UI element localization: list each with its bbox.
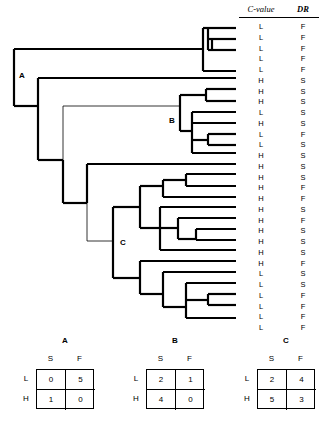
- cvalue-state: H: [240, 87, 282, 98]
- dr-state: F: [288, 65, 318, 76]
- state-row: LF: [236, 130, 325, 141]
- table-cell: 0: [37, 370, 66, 390]
- cvalue-state: L: [240, 44, 282, 55]
- table-cell: 1: [37, 390, 66, 410]
- dr-state: F: [288, 130, 318, 141]
- dr-state: F: [288, 22, 318, 33]
- clade-label-b: B: [168, 116, 176, 126]
- tree-diagram: [0, 0, 245, 330]
- cvalue-state: L: [240, 291, 282, 302]
- column-header: F: [286, 354, 315, 363]
- dr-state: F: [288, 259, 318, 270]
- dr-state: F: [288, 216, 318, 227]
- state-row-list: LFLFLFLFLFHSHSHSLSHSLFLSHSHSHSHFHFHSHFHS…: [236, 22, 325, 334]
- table-cell: 5: [66, 370, 95, 390]
- cvalue-state: L: [240, 269, 282, 280]
- dr-state: S: [288, 97, 318, 108]
- cvalue-state: H: [240, 259, 282, 270]
- table-cell: 1: [176, 370, 205, 390]
- column-header: S: [257, 354, 286, 363]
- state-row: HS: [236, 237, 325, 248]
- dr-state: S: [288, 248, 318, 259]
- table-cell: 4: [147, 390, 176, 410]
- dr-state: F: [288, 323, 318, 334]
- state-row: LF: [236, 22, 325, 33]
- state-row: LF: [236, 44, 325, 55]
- state-row: LF: [236, 323, 325, 334]
- state-row: LS: [236, 140, 325, 151]
- dr-state: S: [288, 119, 318, 130]
- clade-label-a: A: [18, 71, 26, 81]
- cvalue-state: L: [240, 33, 282, 44]
- cvalue-state: L: [240, 323, 282, 334]
- table-column-headers: SF: [257, 354, 315, 366]
- table-grid: 2140: [146, 369, 204, 409]
- state-row: LF: [236, 33, 325, 44]
- state-row: LS: [236, 280, 325, 291]
- column-header: S: [146, 354, 175, 363]
- cvalue-state: L: [240, 108, 282, 119]
- clade-label-c: C: [119, 238, 127, 248]
- state-row: LF: [236, 65, 325, 76]
- row-header: H: [130, 394, 142, 403]
- dr-state: S: [288, 226, 318, 237]
- table-grid: 2453: [257, 369, 315, 409]
- dr-state: S: [288, 173, 318, 184]
- cvalue-state: H: [240, 151, 282, 162]
- cvalue-state: H: [240, 237, 282, 248]
- dr-state: S: [288, 108, 318, 119]
- column-header: F: [175, 354, 204, 363]
- dr-state: S: [288, 269, 318, 280]
- dr-state: F: [288, 33, 318, 44]
- state-row: HS: [236, 119, 325, 130]
- state-row: LS: [236, 269, 325, 280]
- dr-state: F: [288, 54, 318, 65]
- dr-state: F: [288, 44, 318, 55]
- cvalue-state: L: [240, 22, 282, 33]
- contingency-tables: ASFLH0510BSFLH2140CSFLH2453: [0, 336, 325, 429]
- table-cell: 4: [287, 370, 316, 390]
- dr-state: S: [288, 140, 318, 151]
- cvalue-state: H: [240, 97, 282, 108]
- dr-state: F: [288, 291, 318, 302]
- cvalue-state: L: [240, 312, 282, 323]
- cvalue-state: H: [240, 183, 282, 194]
- cvalue-state: H: [240, 226, 282, 237]
- table-column-headers: SF: [36, 354, 94, 366]
- dr-state: F: [288, 312, 318, 323]
- cvalue-state: L: [240, 140, 282, 151]
- table-grid: 0510: [36, 369, 94, 409]
- dr-state: S: [288, 162, 318, 173]
- state-row: HS: [236, 173, 325, 184]
- dr-state: S: [288, 237, 318, 248]
- state-row: HS: [236, 76, 325, 87]
- cvalue-state: H: [240, 162, 282, 173]
- dr-state: F: [288, 183, 318, 194]
- state-row: HS: [236, 97, 325, 108]
- table-cell: 2: [147, 370, 176, 390]
- cvalue-state: H: [240, 194, 282, 205]
- state-row: HS: [236, 248, 325, 259]
- state-row: LF: [236, 302, 325, 313]
- state-row: HF: [236, 259, 325, 270]
- table-cell: 0: [66, 390, 95, 410]
- column-header-cvalue: C-value: [240, 4, 282, 14]
- state-row: LF: [236, 312, 325, 323]
- dr-state: S: [288, 280, 318, 291]
- phylogenetic-tree: A B C: [0, 0, 245, 330]
- column-header-dr: DR: [288, 4, 318, 14]
- cvalue-state: L: [240, 54, 282, 65]
- table-cell: 0: [176, 390, 205, 410]
- state-row: HF: [236, 194, 325, 205]
- row-header: L: [20, 374, 32, 383]
- cvalue-state: L: [240, 65, 282, 76]
- dr-state: S: [288, 205, 318, 216]
- row-header: L: [241, 374, 253, 383]
- state-row: HF: [236, 183, 325, 194]
- state-row: LF: [236, 291, 325, 302]
- state-row: HS: [236, 226, 325, 237]
- table-column-headers: SF: [146, 354, 204, 366]
- state-row: HS: [236, 87, 325, 98]
- dr-state: F: [288, 194, 318, 205]
- row-header: L: [130, 374, 142, 383]
